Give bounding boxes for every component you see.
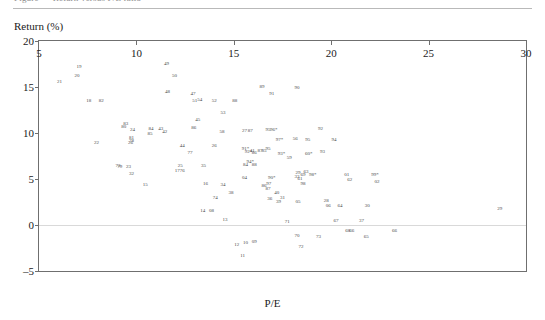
data-point-label: 11 <box>240 253 245 258</box>
data-point-label: 93* <box>278 151 286 156</box>
y-tick-label: 0 <box>29 219 35 231</box>
data-point-label: 76 <box>180 167 185 172</box>
x-tick-label: 20 <box>326 47 337 59</box>
data-point-label: 36 <box>267 196 272 201</box>
data-point-label: 90* <box>268 175 276 180</box>
data-point-label: 69 <box>300 172 305 177</box>
data-point-label: 97 <box>266 180 271 185</box>
data-point-label: 77 <box>187 150 192 155</box>
x-tick-label: 25 <box>423 47 434 59</box>
y-tick-label: 20 <box>23 35 34 47</box>
data-point-label: 90 <box>295 85 300 90</box>
data-point-label: 47 <box>190 91 195 96</box>
data-point-label: 89 <box>260 84 265 89</box>
data-point-label: 40 <box>274 189 279 194</box>
data-point-label: 95 <box>305 136 310 141</box>
data-point-label: 72 <box>299 244 304 249</box>
y-axis-title: Return (%) <box>14 20 63 32</box>
data-point-label: 93 <box>320 149 325 154</box>
y-tick-label: 15 <box>23 81 34 93</box>
data-point-label: 65 <box>364 234 369 239</box>
data-point-label: 20 <box>74 73 79 78</box>
data-point-label: 94 <box>332 136 337 141</box>
data-point-label: 62 <box>347 177 352 182</box>
y-tick-label: 10 <box>23 127 34 139</box>
data-point-label: 09 <box>252 238 257 243</box>
data-point-label: 04 <box>242 175 247 180</box>
data-point-label: 82 <box>99 97 104 102</box>
data-point-label: 41 <box>250 147 255 152</box>
x-tick-mark <box>234 41 235 45</box>
y-tick-mark <box>35 87 39 88</box>
y-tick-mark <box>35 271 39 272</box>
data-point-label: 35 <box>201 163 206 168</box>
data-point-label: 97* <box>276 136 284 141</box>
y-tick-label: 5 <box>29 173 35 185</box>
data-point-label: 30 <box>365 202 370 207</box>
data-point-label: 99* <box>371 172 379 177</box>
data-point-label: 29 <box>497 206 502 211</box>
data-point-label: 73 <box>115 163 120 168</box>
data-point-label: 60* <box>305 151 313 156</box>
data-point-label: 14 <box>200 208 205 213</box>
data-point-label: 44 <box>180 142 185 147</box>
data-point-label: 15 <box>143 181 148 186</box>
data-point-label: 26 <box>212 142 217 147</box>
data-point-label: 84 <box>243 162 248 167</box>
y-tick-mark <box>35 133 39 134</box>
scatter-plot-area: 20151050–5 51015202530 21192018822283802… <box>38 40 527 272</box>
x-tick-mark <box>136 41 137 45</box>
data-point-label: 08 <box>209 208 214 213</box>
data-point-label: 37 <box>359 218 364 223</box>
data-point-label: 24 <box>130 127 135 132</box>
y-tick-mark <box>35 179 39 180</box>
data-point-label: 66 <box>392 227 397 232</box>
data-point-label: 85 <box>261 147 266 152</box>
data-point-label: 38 <box>228 189 233 194</box>
data-point-label: 16 <box>203 180 208 185</box>
header-divider <box>13 8 532 9</box>
data-point-label: 52 <box>212 97 217 102</box>
data-point-label: 21 <box>57 79 62 84</box>
data-point-label: 13 <box>223 216 228 221</box>
data-point-label: 27 <box>242 128 247 133</box>
data-point-label: 58 <box>220 129 225 134</box>
reference-line-zero <box>39 225 526 226</box>
data-point-label: 66 <box>349 227 354 232</box>
data-point-label: 02 <box>374 178 379 183</box>
data-point-label: 45 <box>195 117 200 122</box>
data-point-label: 91 <box>269 91 274 96</box>
data-point-label: 87 <box>248 128 253 133</box>
data-point-label: 71 <box>285 219 290 224</box>
x-tick-label: 30 <box>521 47 532 59</box>
data-point-label: 23 <box>126 164 131 169</box>
y-tick-mark <box>35 41 39 42</box>
data-point-label: 49 <box>164 61 169 66</box>
x-tick-mark <box>331 41 332 45</box>
data-point-label: 70 <box>295 233 300 238</box>
data-point-label: 67 <box>334 218 339 223</box>
data-point-label: 05 <box>296 199 301 204</box>
x-tick-mark <box>429 41 430 45</box>
data-point-label: 88 <box>252 162 257 167</box>
data-point-label: 18 <box>86 97 91 102</box>
x-axis-title: P/E <box>0 297 545 309</box>
data-point-label: 32 <box>129 171 134 176</box>
data-point-label: 92 <box>318 126 323 131</box>
y-tick-mark <box>35 225 39 226</box>
data-point-label: 39 <box>276 199 281 204</box>
data-point-label: 85 <box>148 131 153 136</box>
data-point-label: 87 <box>265 186 270 191</box>
x-tick-label: 10 <box>131 47 142 59</box>
data-point-label: 86 <box>191 125 196 130</box>
data-point-label: 96* <box>270 127 278 132</box>
data-point-label: 34 <box>221 181 226 186</box>
data-point-label: 64 <box>337 202 342 207</box>
data-point-label: 73 <box>316 234 321 239</box>
data-point-label: 80 <box>121 123 126 128</box>
data-point-label: 54 <box>197 96 202 101</box>
data-point-label: 88 <box>232 97 237 102</box>
y-tick-label: –5 <box>23 265 34 277</box>
data-point-label: 12 <box>234 242 239 247</box>
data-point-label: 19 <box>76 63 81 68</box>
